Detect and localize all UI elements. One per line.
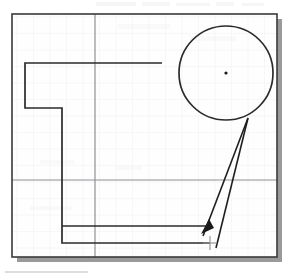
minor-grid (12, 14, 277, 257)
cad-drawing-canvas[interactable] (0, 0, 297, 277)
circle-center-point (224, 71, 227, 74)
scanned-drawing-figure (0, 0, 297, 277)
